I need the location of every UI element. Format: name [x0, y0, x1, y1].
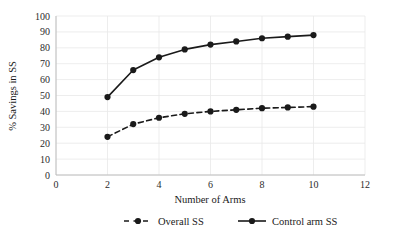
y-axis-tick-labels: 0102030405060708090100 [35, 11, 50, 181]
data-point-marker [207, 108, 213, 114]
x-tick-label: 10 [309, 179, 319, 190]
x-tick-label: 6 [208, 179, 213, 190]
data-point-marker [182, 46, 188, 52]
data-point-marker [156, 115, 162, 121]
legend-marker [135, 218, 141, 224]
line-chart-figure: 0102030405060708090100 024681012 % Savin… [0, 0, 407, 238]
chart-canvas: 0102030405060708090100 024681012 % Savin… [0, 0, 407, 238]
y-tick-label: 90 [40, 26, 50, 37]
legend-label-control-arm-ss: Control arm SS [272, 216, 337, 227]
y-tick-label: 20 [40, 138, 50, 149]
data-point-marker [310, 104, 316, 110]
x-tick-label: 0 [54, 179, 59, 190]
x-axis-title: Number of Arms [174, 194, 245, 205]
data-point-marker [207, 42, 213, 48]
y-tick-label: 50 [40, 90, 50, 101]
y-tick-label: 100 [35, 11, 50, 22]
y-tick-label: 0 [45, 170, 50, 181]
data-point-marker [156, 54, 162, 60]
y-tick-label: 80 [40, 42, 50, 53]
data-point-marker [285, 104, 291, 110]
y-tick-label: 30 [40, 122, 50, 133]
data-point-marker [182, 111, 188, 117]
data-point-marker [259, 105, 265, 111]
legend-marker [249, 218, 255, 224]
data-point-marker [104, 94, 110, 100]
data-point-marker [104, 134, 110, 140]
y-tick-label: 10 [40, 154, 50, 165]
x-tick-label: 4 [157, 179, 162, 190]
x-axis-tick-labels: 024681012 [54, 179, 371, 190]
data-point-marker [130, 67, 136, 73]
data-point-marker [233, 107, 239, 113]
x-tick-label: 2 [105, 179, 110, 190]
data-point-marker [310, 32, 316, 38]
data-point-marker [233, 38, 239, 44]
data-point-marker [130, 121, 136, 127]
y-tick-label: 40 [40, 106, 50, 117]
gridlines-group [56, 16, 365, 175]
legend-label-overall-ss: Overall SS [158, 216, 204, 227]
data-point-marker [285, 34, 291, 40]
data-point-marker [259, 35, 265, 41]
x-tick-label: 8 [260, 179, 265, 190]
x-tick-label: 12 [360, 179, 370, 190]
y-axis-title: % Savings in SS [7, 61, 18, 131]
y-tick-label: 70 [40, 58, 50, 69]
chart-legend: Overall SSControl arm SS [124, 216, 337, 227]
y-tick-label: 60 [40, 74, 50, 85]
